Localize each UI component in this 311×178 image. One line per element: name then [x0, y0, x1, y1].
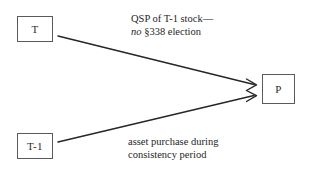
caption-qsp-line2-rest: §338 election: [142, 26, 201, 37]
arrow-t1-to-p: [58, 91, 257, 143]
node-box-t: T: [17, 16, 53, 42]
caption-qsp-line1: QSP of T-1 stock—: [131, 13, 213, 26]
edge-caption-asset: asset purchase during consistency period: [128, 136, 218, 161]
diagram-canvas: T T-1 P QSP of T-1 stock— no §338 electi…: [0, 0, 311, 178]
caption-qsp-line2: no §338 election: [131, 26, 213, 39]
node-label-t: T: [31, 23, 38, 35]
arrow-t-to-p: [58, 36, 257, 91]
node-box-p: P: [262, 74, 295, 104]
caption-asset-line1: asset purchase during: [128, 136, 218, 149]
edge-caption-qsp: QSP of T-1 stock— no §338 election: [131, 13, 213, 38]
node-label-p: P: [275, 83, 281, 95]
node-box-t1: T-1: [17, 133, 53, 159]
node-label-t1: T-1: [27, 140, 43, 152]
caption-qsp-italic-no: no: [131, 26, 142, 37]
caption-asset-line2: consistency period: [128, 149, 218, 162]
